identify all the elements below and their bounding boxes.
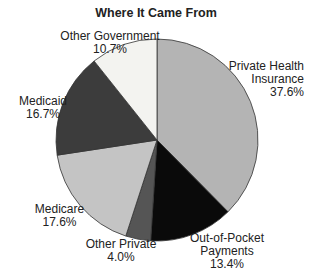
label-pct: 4.0% [76,251,166,264]
label-pct: 10.7% [50,43,170,56]
label-out-of-pocket: Out-of-Pocket Payments 13.4% [182,232,272,269]
label-medicare: Medicare 17.6% [32,203,87,229]
label-medicaid: Medicaid 16.7% [18,95,68,121]
label-pct: 17.6% [32,216,87,229]
label-other-private: Other Private 4.0% [76,238,166,264]
label-pct: 13.4% [182,258,272,269]
label-pct: 37.6% [224,86,304,99]
label-other-government: Other Government 10.7% [50,30,170,56]
label-private-health: Private Health Insurance 37.6% [224,60,304,99]
label-pct: 16.7% [18,108,68,121]
